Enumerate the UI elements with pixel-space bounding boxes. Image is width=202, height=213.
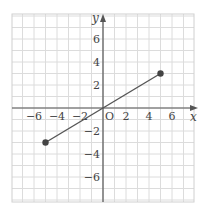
origin-label: O xyxy=(105,110,114,123)
axes xyxy=(12,14,198,202)
y-tick-label: −4 xyxy=(84,148,100,161)
y-tick-label: 4 xyxy=(93,56,100,69)
x-axis-label: x xyxy=(190,110,197,124)
y-axis-arrow-icon xyxy=(100,14,106,22)
y-tick-label: 6 xyxy=(93,33,100,46)
x-tick-label: 2 xyxy=(123,110,130,123)
y-tick-label: 2 xyxy=(93,79,100,92)
x-tick-label: −4 xyxy=(49,110,65,123)
x-tick-label: 4 xyxy=(146,110,153,123)
y-tick-label: −2 xyxy=(84,125,100,138)
endpoint-marker xyxy=(42,139,48,145)
coordinate-plane: −6−4−2246642−2−4−6 x y O xyxy=(0,0,202,213)
y-axis-label: y xyxy=(91,11,99,25)
x-tick-label: 6 xyxy=(169,110,176,123)
x-tick-label: −6 xyxy=(26,110,42,123)
y-tick-label: −6 xyxy=(84,171,100,184)
endpoint-marker xyxy=(157,70,163,76)
